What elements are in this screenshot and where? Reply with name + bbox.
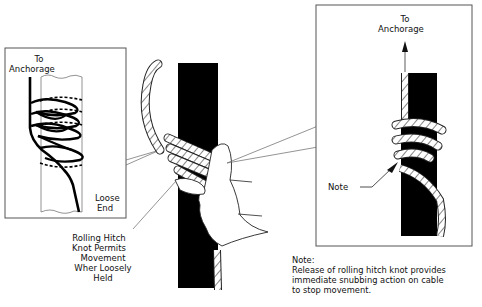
rolling-hitch-diagram: To Anchorage Loose End Rolling Hitch Kno… — [0, 0, 482, 307]
right-inset-anchorage-label: Anchorage — [378, 24, 424, 34]
left-inset-to-label: To — [25, 54, 53, 64]
center-callout-line — [133, 181, 176, 229]
footnote-line2: immediate snubbing action on cable — [292, 275, 446, 285]
right-inset-to-label: To — [391, 14, 419, 24]
left-inset-end-label: End — [97, 203, 113, 213]
footnote-line3: to stop movement. — [292, 285, 446, 295]
left-inset-anchorage-label: Anchorage — [9, 64, 55, 74]
right-callout-lines — [227, 126, 318, 163]
center-callout-line3: Movement — [66, 253, 140, 263]
center-illustration — [145, 63, 268, 290]
center-callout-line2: Knot Permits — [62, 243, 136, 253]
footnote-heading: Note: — [292, 255, 446, 265]
left-callout-lines — [126, 150, 160, 165]
right-inset-box — [316, 5, 472, 246]
center-callout-line5: Held — [64, 273, 142, 283]
center-callout-line1: Rolling Hitch — [62, 233, 136, 243]
footnote: Note: Release of rolling hitch knot prov… — [292, 255, 446, 295]
left-inset-loose-label: Loose — [95, 193, 120, 203]
right-inset-note-pointer-label: Note — [328, 182, 348, 192]
center-callout-line4: Wher Loosely — [64, 263, 142, 273]
footnote-line1: Release of rolling hitch knot provides — [292, 265, 446, 275]
